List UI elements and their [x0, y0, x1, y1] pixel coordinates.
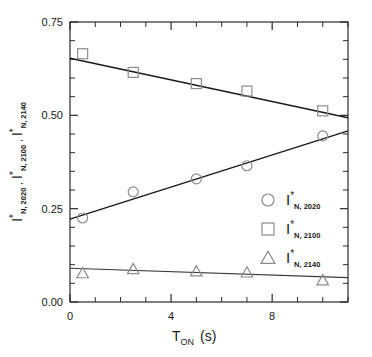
fit-line-square	[70, 58, 348, 118]
y-title-sub-3: N, 2140	[19, 102, 28, 128]
legend-label-square: I*N, 2100	[286, 219, 320, 240]
y-title-sub-1: N, 2020	[19, 188, 28, 214]
marker-square	[242, 86, 252, 96]
y-title-star-3: *	[8, 128, 19, 132]
y-title-star-2: *	[8, 171, 19, 175]
marker-triangle	[191, 266, 203, 276]
x-tick-label: 0	[67, 310, 73, 322]
x-axis-title-units: (s)	[200, 328, 216, 344]
marker-triangle	[261, 251, 275, 263]
y-title-comma-1: ,	[14, 182, 24, 185]
svg-text:TON(s): TON(s)	[172, 328, 216, 347]
x-axis-title: TON(s)	[172, 328, 216, 347]
marker-triangle	[127, 263, 139, 273]
y-title-comma-2: ,	[14, 139, 24, 142]
regression-lines	[70, 58, 348, 277]
x-tick-label: 8	[269, 310, 275, 322]
legend-label-circle: I*N, 2020	[286, 190, 320, 211]
chart-figure: 0.000.250.500.75 048 TON(s) I*N, 2020,I*…	[0, 0, 372, 357]
svg-text:I*N, 2020,I*N, 2100,I*N, 2140: I*N, 2020,I*N, 2100,I*N, 2140	[8, 102, 28, 222]
marker-square	[262, 223, 274, 235]
chart-legend: I*N, 2020I*N, 2100I*N, 2140	[261, 190, 320, 269]
marker-triangle	[241, 267, 253, 277]
x-axis-title-sub: ON	[181, 337, 195, 347]
y-tick-label: 0.50	[42, 109, 63, 121]
scatter-plot: 0.000.250.500.75 048 TON(s) I*N, 2020,I*…	[0, 0, 372, 357]
x-axis-tick-labels: 048	[67, 310, 275, 322]
y-tick-label: 0.75	[42, 16, 63, 28]
marker-square	[191, 79, 201, 89]
marker-square	[318, 106, 328, 116]
fit-line-triangle	[70, 268, 348, 277]
y-axis-tick-labels: 0.000.250.500.75	[42, 16, 63, 308]
y-tick-label: 0.25	[42, 203, 63, 215]
marker-square	[78, 49, 88, 59]
y-title-star-1: *	[8, 214, 19, 218]
marker-circle	[128, 187, 138, 197]
y-tick-label: 0.00	[42, 296, 63, 308]
x-tick-label: 4	[168, 310, 174, 322]
legend-label-triangle: I*N, 2140	[286, 248, 320, 269]
marker-circle	[262, 194, 274, 206]
y-title-sub-2: N, 2100	[19, 145, 28, 171]
y-axis-title: I*N, 2020,I*N, 2100,I*N, 2140	[8, 102, 28, 222]
